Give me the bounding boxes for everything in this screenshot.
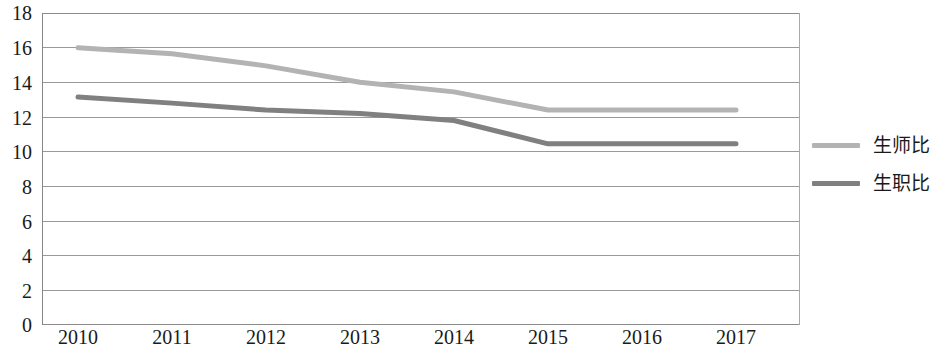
legend-item-生职比: 生职比 — [812, 164, 937, 202]
x-axis-tick-label: 2015 — [528, 327, 568, 347]
legend-color-swatch — [812, 181, 860, 186]
plot-canvas — [42, 13, 800, 325]
y-axis-tick-label: 6 — [22, 212, 32, 232]
series-line-生师比 — [78, 48, 736, 110]
x-axis-tick-label: 2016 — [622, 327, 662, 347]
x-axis-tick-label: 2011 — [152, 327, 191, 347]
x-axis-tick-label: 2010 — [58, 327, 98, 347]
series-lines — [78, 48, 736, 144]
x-axis-tick-label: 2012 — [246, 327, 286, 347]
y-axis-tick-label: 8 — [22, 177, 32, 197]
y-axis-tick-label: 16 — [12, 38, 32, 58]
y-axis-tick-label: 18 — [12, 3, 32, 23]
y-axis-tick-label: 2 — [22, 281, 32, 301]
x-axis-tick-labels: 2010 2011 2012 2013 2014 2015 2016 2017 — [0, 327, 939, 354]
axis-spines — [43, 13, 800, 325]
y-axis-tick-label: 12 — [12, 108, 32, 128]
plot-area — [42, 13, 800, 325]
legend-item-label: 生师比 — [873, 136, 930, 155]
x-axis-tick-label: 2013 — [340, 327, 380, 347]
y-axis-tick-label: 10 — [12, 142, 32, 162]
legend-item-生师比: 生师比 — [812, 126, 937, 164]
legend-color-swatch — [812, 143, 860, 148]
y-axis-tick-label: 4 — [22, 246, 32, 266]
x-axis-tick-label: 2017 — [716, 327, 756, 347]
gridlines — [42, 14, 800, 325]
line-chart: 18 16 14 12 10 8 6 4 2 0 — [0, 0, 939, 354]
chart-legend: 生师比 生职比 — [812, 126, 937, 202]
legend-item-label: 生职比 — [873, 174, 930, 193]
x-axis-tick-label: 2014 — [434, 327, 474, 347]
series-line-生职比 — [78, 97, 736, 144]
y-axis-tick-labels: 18 16 14 12 10 8 6 4 2 0 — [0, 0, 40, 354]
y-axis-tick-label: 14 — [12, 73, 32, 93]
